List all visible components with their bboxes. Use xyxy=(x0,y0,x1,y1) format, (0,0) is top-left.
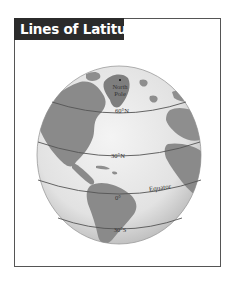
label-30s: 30°S xyxy=(114,226,127,233)
north-pole-marker xyxy=(119,79,121,81)
north-pole-label-1: North xyxy=(112,83,128,90)
globe-illustration: North Pole 60°N 30°N Equator 0° 30°S xyxy=(0,0,235,286)
label-30n: 30°N xyxy=(111,152,125,159)
label-60n: 60°N xyxy=(115,107,129,114)
north-pole-label-2: Pole xyxy=(114,90,126,97)
label-0: 0° xyxy=(115,194,121,201)
